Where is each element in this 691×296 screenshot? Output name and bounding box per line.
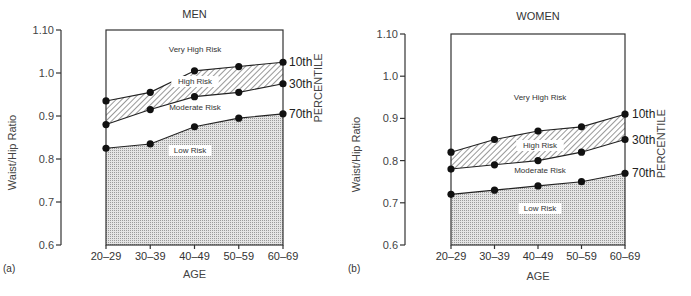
data-point-10th xyxy=(191,67,198,74)
y-tick-label: 0.9 xyxy=(39,110,54,122)
percentile-label: 10th xyxy=(289,55,312,69)
data-point-70th xyxy=(279,110,286,117)
data-point-30th xyxy=(491,161,498,168)
x-tick-label: 20–29 xyxy=(436,250,467,262)
y-tick-label: 0.7 xyxy=(39,196,54,208)
data-point-30th xyxy=(578,149,585,156)
data-point-10th xyxy=(447,149,454,156)
zone-label: High Risk xyxy=(523,141,558,150)
percentile-label: 70th xyxy=(289,107,312,121)
y-axis-title: Waist/Hip Ratio xyxy=(6,115,18,190)
chart-title: WOMEN xyxy=(516,10,559,22)
data-point-30th xyxy=(102,121,109,128)
x-tick-label: 20–29 xyxy=(91,250,122,262)
data-point-30th xyxy=(147,106,154,113)
data-point-10th xyxy=(147,89,154,96)
data-point-10th xyxy=(621,111,628,118)
waist-hip-ratio-charts: 0.60.70.80.91.01.1020–2930–3940–4950–596… xyxy=(0,0,691,296)
y-tick-label: 0.8 xyxy=(39,153,54,165)
zone-label: Low Risk xyxy=(174,146,207,155)
y-axis-title: Waist/Hip Ratio xyxy=(350,117,362,192)
data-point-30th xyxy=(235,89,242,96)
zone-label: Low Risk xyxy=(524,204,557,213)
y-tick-label: 0.9 xyxy=(383,112,398,124)
chart-title: MEN xyxy=(182,8,207,20)
low-risk-area xyxy=(106,114,283,245)
data-point-70th xyxy=(235,115,242,122)
data-point-30th xyxy=(191,93,198,100)
percentile-axis-title: PERCENTILE xyxy=(312,54,324,123)
data-point-70th xyxy=(102,145,109,152)
data-point-70th xyxy=(578,178,585,185)
x-tick-label: 40–49 xyxy=(179,250,210,262)
x-axis-title: AGE xyxy=(183,268,206,280)
data-point-30th xyxy=(279,80,286,87)
zone-label: Very High Risk xyxy=(514,93,567,102)
percentile-label: 30th xyxy=(632,133,655,147)
data-point-10th xyxy=(534,127,541,134)
y-tick-label: 1.10 xyxy=(33,24,54,36)
x-axis-title: AGE xyxy=(526,270,549,282)
data-point-10th xyxy=(491,136,498,143)
x-tick-label: 60–69 xyxy=(610,250,641,262)
y-tick-label: 1.0 xyxy=(383,70,398,82)
data-point-30th xyxy=(534,157,541,164)
data-point-30th xyxy=(447,165,454,172)
zone-label: Moderate Risk xyxy=(169,103,222,112)
data-point-70th xyxy=(191,123,198,130)
data-point-70th xyxy=(447,191,454,198)
x-tick-label: 30–39 xyxy=(479,250,510,262)
x-tick-label: 40–49 xyxy=(523,250,554,262)
y-tick-label: 0.7 xyxy=(383,197,398,209)
data-point-70th xyxy=(534,182,541,189)
x-tick-label: 60–69 xyxy=(268,250,299,262)
y-tick-label: 1.0 xyxy=(39,67,54,79)
zone-label: Very High Risk xyxy=(169,45,222,54)
data-point-70th xyxy=(621,170,628,177)
zone-label: Moderate Risk xyxy=(514,166,567,175)
x-tick-label: 50–59 xyxy=(566,250,597,262)
data-point-30th xyxy=(621,136,628,143)
y-tick-label: 0.8 xyxy=(383,155,398,167)
percentile-label: 10th xyxy=(632,107,655,121)
data-point-10th xyxy=(102,97,109,104)
women-chart: 0.60.70.80.91.01.1020–2930–3940–4950–596… xyxy=(348,10,667,282)
percentile-label: 30th xyxy=(289,77,312,91)
data-point-10th xyxy=(279,59,286,66)
data-point-10th xyxy=(235,63,242,70)
x-tick-label: 50–59 xyxy=(223,250,254,262)
percentile-label: 70th xyxy=(632,166,655,180)
men-chart: 0.60.70.80.91.01.1020–2930–3940–4950–596… xyxy=(3,8,324,280)
y-tick-label: 0.6 xyxy=(39,239,54,251)
data-point-70th xyxy=(147,140,154,147)
y-tick-label: 1.10 xyxy=(377,28,398,40)
data-point-70th xyxy=(491,187,498,194)
data-point-10th xyxy=(578,123,585,130)
x-tick-label: 30–39 xyxy=(135,250,166,262)
panel-label: (b) xyxy=(348,263,360,274)
y-tick-label: 0.6 xyxy=(383,239,398,251)
percentile-axis-title: PERCENTILE xyxy=(655,109,667,178)
panel-label: (a) xyxy=(3,263,15,274)
zone-label: High Risk xyxy=(178,77,213,86)
